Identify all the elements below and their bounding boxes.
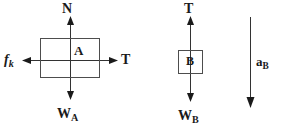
- tension-a-arrowhead-icon: [109, 57, 118, 64]
- weight-b-arrowhead-icon: [187, 93, 194, 102]
- free-body-diagram: N WA fk T A T WB B aB: [0, 0, 291, 130]
- label-tension-a: T: [121, 53, 130, 67]
- friction-force-arrowhead-icon: [22, 57, 31, 64]
- label-weight-a: WA: [57, 107, 78, 123]
- label-tension-b: T: [184, 2, 193, 16]
- label-block-b: B: [186, 55, 194, 67]
- label-weight-b: WB: [178, 109, 199, 125]
- normal-force-arrowhead-icon: [67, 16, 74, 25]
- diagram-vectors: [0, 0, 291, 130]
- tension-b-arrowhead-icon: [187, 16, 194, 25]
- weight-a-arrowhead-icon: [67, 91, 74, 100]
- label-normal-force: N: [62, 2, 72, 16]
- label-block-a: A: [74, 44, 83, 57]
- label-acceleration-b: aB: [256, 55, 269, 71]
- label-friction-force: fk: [4, 53, 14, 69]
- acceleration-arrowhead-icon: [247, 97, 255, 108]
